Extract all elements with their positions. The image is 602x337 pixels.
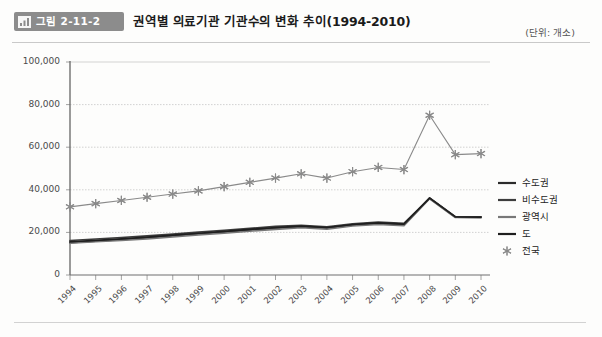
figure-container: 그림 2-11-2 권역별 의료기관 기관수의 변화 추이(1994-2010)… xyxy=(0,0,602,337)
y-axis-tick-label: 60,000 xyxy=(8,142,60,151)
y-axis-tick-label: 40,000 xyxy=(8,185,60,194)
footer-divider xyxy=(14,322,586,323)
legend-asterisk-icon xyxy=(497,245,517,257)
legend-line-icon xyxy=(497,177,517,189)
chart-legend: 수도권비수도권광역시도전국 xyxy=(497,174,558,259)
legend-line-icon xyxy=(497,211,517,223)
figure-header: 그림 2-11-2 권역별 의료기관 기관수의 변화 추이(1994-2010)… xyxy=(0,0,602,44)
chart-area: 020,00040,00060,00080,000100,000 1994199… xyxy=(0,44,602,337)
legend-label: 전국 xyxy=(522,246,540,256)
legend-label: 도 xyxy=(522,229,531,239)
y-axis-tick-label: 100,000 xyxy=(8,57,60,66)
bar-chart-icon xyxy=(18,16,31,28)
header-divider xyxy=(12,42,590,43)
figure-title: 권역별 의료기관 기관수의 변화 추이(1994-2010) xyxy=(133,11,411,30)
legend-item[interactable]: 전국 xyxy=(497,242,558,259)
legend-label: 수도권 xyxy=(522,178,549,188)
y-axis-tick-label: 80,000 xyxy=(8,100,60,109)
figure-number-label: 그림 2-11-2 xyxy=(36,16,100,27)
legend-line-icon xyxy=(497,228,517,240)
figure-unit-label: (단위: 개소) xyxy=(525,25,575,39)
y-axis-tick-label: 20,000 xyxy=(8,227,60,236)
figure-number-badge: 그림 2-11-2 xyxy=(14,12,124,31)
y-axis-tick-label: 0 xyxy=(8,270,60,279)
legend-item[interactable]: 수도권 xyxy=(497,174,558,191)
legend-item[interactable]: 비수도권 xyxy=(497,191,558,208)
legend-label: 광역시 xyxy=(522,212,549,222)
legend-item[interactable]: 도 xyxy=(497,225,558,242)
legend-line-icon xyxy=(497,194,517,206)
legend-label: 비수도권 xyxy=(522,195,558,205)
legend-item[interactable]: 광역시 xyxy=(497,208,558,225)
